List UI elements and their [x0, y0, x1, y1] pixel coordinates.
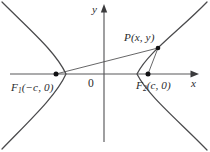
left-focus-label: F1(−c, 0)	[11, 82, 53, 94]
left-focus-point	[54, 72, 59, 77]
origin-label: 0	[88, 78, 94, 90]
right-focus-label-symbol: F	[136, 79, 143, 91]
left-focus-label-symbol: F	[11, 81, 18, 93]
left-focus-label-coords: (−c, 0)	[22, 81, 54, 93]
figure-canvas	[0, 0, 210, 152]
point-p-marker	[156, 46, 161, 51]
segment-f1-p	[56, 48, 158, 74]
y-axis-arrowhead	[101, 4, 107, 13]
right-focus-point	[146, 72, 151, 77]
point-p-label-symbol: P	[124, 31, 131, 43]
segment-f2-p	[148, 48, 158, 74]
right-focus-label-coords: (c, 0)	[147, 79, 171, 91]
point-p-label: P(x, y)	[124, 32, 155, 43]
hyperbola-figure: F1(−c, 0) F2(c, 0) P(x, y) 0 x y	[0, 0, 210, 152]
y-axis-label: y	[92, 4, 97, 15]
right-focus-label: F2(c, 0)	[136, 80, 171, 92]
x-axis-label: x	[191, 78, 196, 89]
point-p-label-coords: (x, y)	[131, 31, 155, 43]
